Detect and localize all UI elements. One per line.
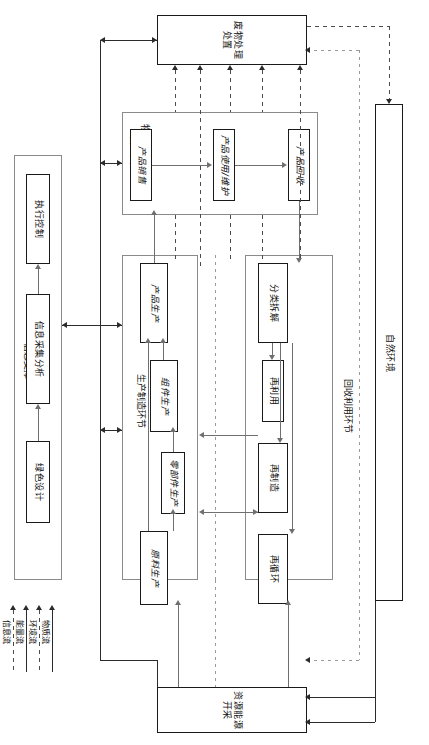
node-product-recovery-label: 产品回收 (294, 146, 305, 184)
arrowhead-nature-to-extraction-upper (305, 694, 310, 700)
node-sorting-disassembly: 分类拆解 (258, 263, 288, 343)
legend-label-environment-flow: 环境流 (28, 620, 39, 644)
node-execution-control-label: 执行控制 (33, 200, 44, 238)
node-natural-environment-label: 自然环境 (384, 334, 395, 372)
connector-leftrail-drop-extraction (157, 660, 158, 687)
connector-left-vertical-rail (100, 40, 101, 660)
arrowhead-legend-information-flow (10, 605, 16, 610)
node-product-use-maintenance: 产品使用/维护 (213, 129, 235, 201)
node-green-design: 绿色设计 (26, 441, 50, 523)
arrowhead-design-to-analysis (35, 404, 41, 409)
group-recycling-caption: 回收利用环节 (342, 379, 353, 433)
arrowhead-envflow-recycling-to-waste (297, 65, 303, 70)
connector-component-to-product (163, 343, 164, 360)
connector-reuse-to-production (204, 435, 258, 436)
node-waste-treatment-label: 废物处理 处置 (221, 21, 243, 59)
node-component-production: 组件生产 (150, 360, 178, 432)
node-recycling-loop: 再循环 (258, 534, 288, 604)
arrowhead-info-to-production-upper (117, 322, 122, 328)
arrowhead-infoflow-bottom-return (305, 657, 310, 663)
node-remanufacturing: 再制造 (258, 443, 288, 513)
arrowhead-sorting-to-recycle (289, 529, 295, 534)
envflow-sales-to-waste (175, 70, 176, 112)
legend-line-information-flow (13, 610, 14, 672)
legend-label-energy-flow: 能量流 (15, 620, 26, 644)
arrowhead-sales-to-use (207, 162, 212, 168)
connector-nature-to-extraction-lower (307, 722, 375, 723)
node-raw-material-production: 原料生产 (140, 531, 168, 605)
legend-label-material-flow: 物质流 (41, 620, 52, 644)
arrowhead-recovery-to-sorting (296, 258, 302, 263)
infoflow-right-vertical-rail (359, 50, 360, 660)
connector-parts-to-component (173, 432, 174, 452)
connector-raw-to-product (148, 343, 149, 531)
arrowhead-production-to-sales (151, 210, 157, 215)
envflow-use-column-lower (230, 215, 231, 260)
arrowhead-raw-to-parts (170, 509, 176, 514)
arrowhead-leftrail-to-logistics (117, 160, 122, 166)
node-sorting-disassembly-label: 分类拆解 (268, 284, 279, 322)
diagram-canvas: 废物处理 处置 自然环境 信息支撑 执行控制 信息采集分析 绿色设计 物流及使用… (0, 0, 429, 745)
arrowhead-reman-to-production (199, 509, 204, 515)
arrowhead-envflow-production-to-waste (197, 65, 203, 70)
connector-info-to-production-upper (62, 325, 122, 326)
arrowhead-envflow-use-to-waste (227, 65, 233, 70)
node-waste-treatment: 废物处理 处置 (157, 15, 307, 65)
node-product-sales: 产品销售 (130, 129, 152, 201)
connector-sales-to-use (152, 165, 207, 166)
connector-extraction-recycle-riser (288, 604, 289, 634)
node-product-recovery: 产品回收 (288, 129, 310, 201)
node-info-collection-analysis: 信息采集分析 (26, 294, 50, 404)
connector-sorting-to-reuse (272, 343, 273, 355)
arrowhead-sorting-to-reman (277, 438, 283, 443)
node-natural-environment: 自然环境 (375, 104, 403, 601)
envflow-use-to-waste (230, 70, 231, 112)
node-product-sales-label: 产品销售 (136, 146, 147, 184)
connector-analysis-to-control (38, 269, 39, 294)
arrowhead-legend-environment-flow (36, 605, 42, 610)
arrowhead-production-to-info-upper (62, 322, 67, 328)
arrowhead-use-to-recovery (282, 162, 287, 168)
arrowhead-extraction-to-raw (175, 600, 181, 605)
connector-leftrail-to-extraction (100, 660, 157, 661)
node-remanufacturing-label: 再制造 (268, 464, 279, 493)
arrowhead-reuse-to-production (199, 432, 204, 438)
envflow-waste-to-nature-h (307, 26, 389, 27)
infoflow-bottom-return-h (307, 660, 359, 661)
node-reuse-label: 再利用 (268, 377, 279, 406)
group-production-caption: 生产制造环节 (135, 374, 146, 428)
node-raw-material-production-label: 原料生产 (149, 549, 160, 587)
connector-sorting-to-reman (280, 343, 281, 438)
envflow-recovery-to-waste (262, 70, 263, 112)
arrowhead-analysis-to-control (35, 264, 41, 269)
node-product-production-label: 产品生产 (149, 284, 160, 322)
arrowhead-envflow-recovery-to-waste (259, 65, 265, 70)
infoflow-nature-to-waste-h (307, 50, 359, 51)
node-product-use-maintenance-label: 产品使用/维护 (219, 135, 230, 196)
envflow-production-column-lower (175, 215, 176, 260)
node-execution-control: 执行控制 (26, 174, 50, 264)
legend-label-information-flow: 信息流 (2, 620, 13, 644)
envflow-production-to-waste (200, 70, 201, 270)
legend-line-material-flow (52, 610, 53, 672)
arrowhead-waste-to-nature (386, 99, 392, 104)
node-parts-production-label: 零部件生产 (168, 459, 179, 507)
node-resource-extraction-label: 资源能源 开采 (221, 691, 243, 729)
connector-nature-down-rail (375, 601, 376, 722)
legend-line-energy-flow (26, 610, 27, 672)
envflow-waste-to-nature-v (389, 26, 390, 99)
arrowhead-envflow-sales-to-waste (172, 65, 178, 70)
legend: 物质流 环境流 能量流 信息流 (8, 604, 70, 682)
connector-raw-to-parts (173, 514, 174, 531)
arrowhead-component-to-product (160, 338, 166, 343)
arrowhead-production-to-info-lower (100, 427, 105, 433)
node-component-production-label: 组件生产 (159, 377, 170, 415)
connector-extraction-to-recycle-v (288, 633, 289, 687)
connector-sorting-to-recycle (292, 343, 293, 529)
connector-design-to-analysis (38, 409, 39, 441)
node-green-design-label: 绿色设计 (33, 463, 44, 501)
envflow-recycling-to-waste (300, 70, 301, 260)
envflow-recovery-column-lower (262, 215, 263, 260)
arrowhead-parts-to-component (170, 427, 176, 432)
connector-production-to-sales (154, 215, 155, 263)
